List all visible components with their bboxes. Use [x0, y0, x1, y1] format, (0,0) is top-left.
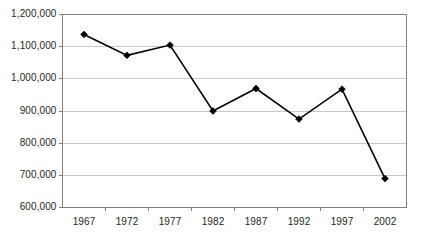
x-axis-ticks — [106, 208, 364, 212]
y-axis-tick-label: 600,000 — [0, 201, 57, 212]
data-point-markers — [81, 31, 389, 182]
y-axis-tick-label: 1,100,000 — [0, 40, 57, 51]
y-axis-ticks — [59, 15, 63, 208]
chart-canvas — [0, 0, 423, 242]
y-axis-tick-label: 900,000 — [0, 105, 57, 116]
gridlines — [63, 47, 407, 176]
line-chart: 1,200,0001,100,0001,000,000900,000800,00… — [0, 0, 423, 242]
data-point-marker — [124, 52, 131, 59]
y-axis-tick-label: 800,000 — [0, 137, 57, 148]
data-point-marker — [81, 31, 88, 38]
x-axis-tick-label: 2002 — [360, 216, 410, 227]
data-point-marker — [382, 175, 389, 182]
y-axis-tick-label: 1,200,000 — [0, 8, 57, 19]
y-axis-tick-label: 700,000 — [0, 169, 57, 180]
y-axis-tick-label: 1,000,000 — [0, 72, 57, 83]
